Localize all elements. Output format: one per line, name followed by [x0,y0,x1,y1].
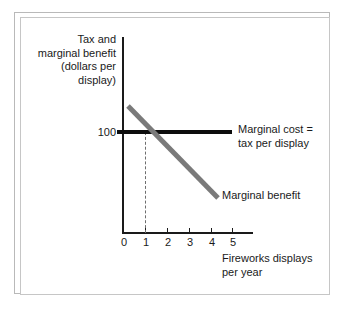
y-axis-line [122,37,124,234]
x-axis-tick-label-2: 2 [158,236,178,249]
x-axis-title-line-1: Fireworks displays [222,252,332,266]
y-axis-tick-label-100: 100 [74,126,116,139]
x-axis-tick-2 [167,228,168,233]
x-axis-title: Fireworks displays per year [222,252,332,279]
y-axis-title-line-2: marginal benefit [14,47,116,61]
x-axis-tick-0 [123,228,124,233]
y-axis-title-line-4: display) [14,74,116,88]
x-axis-tick-5 [232,228,233,233]
marginal-cost-label-line-1: Marginal cost = [238,123,338,137]
x-axis-tick-label-5: 5 [223,236,243,249]
x-axis-tick-label-4: 4 [202,236,222,249]
x-axis-tick-label-3: 3 [180,236,200,249]
y-axis-title: Tax and marginal benefit (dollars per di… [14,33,116,87]
x-axis-tick-4 [211,228,212,233]
marginal-cost-label-line-2: tax per display [238,137,338,151]
marginal-cost-label: Marginal cost = tax per display [238,123,338,150]
x-axis-title-line-2: per year [222,266,332,280]
marginal-benefit-label-line-1: Marginal benefit [222,189,332,203]
x-axis-tick-label-1: 1 [136,236,156,249]
y-axis-title-line-3: (dollars per [14,60,116,74]
figure-root: 0 1 2 3 4 5 100 Tax and marginal benefit… [0,0,342,312]
y-axis-title-line-1: Tax and [14,33,116,47]
chart-plot-area: 0 1 2 3 4 5 100 Tax and marginal benefit… [0,0,342,312]
x-axis-tick-label-0: 0 [114,236,134,249]
marginal-benefit-line [125,103,221,203]
x-axis-line [122,232,253,234]
x-axis-tick-3 [189,228,190,233]
marginal-benefit-label: Marginal benefit [222,189,332,203]
